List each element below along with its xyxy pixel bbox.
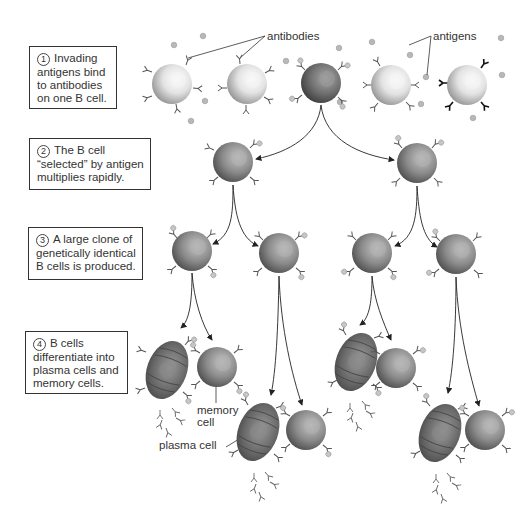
step-text-line: plasma cells and <box>33 364 119 376</box>
memory-cell <box>188 341 246 394</box>
antigens-label: antigens <box>433 30 476 43</box>
step-number: 3 <box>36 234 49 247</box>
naive-b-cell-2 <box>218 55 274 114</box>
step-2-box: 2The B cell “selected” by antigen multip… <box>29 138 151 190</box>
plasma-cell-label: plasma cell <box>159 439 217 452</box>
memory-cell <box>457 404 516 453</box>
naive-b-cell-1 <box>143 56 203 114</box>
step-text-line: The B cell <box>54 144 105 156</box>
step-4-box: 4B cells differentiate into plasma cells… <box>25 331 128 394</box>
step-3-box: 3A large clone of genetically identical … <box>28 227 143 280</box>
secreted-antibodies <box>432 471 461 503</box>
memory-cell <box>371 344 427 391</box>
step-text-line: to antibodies <box>37 79 102 91</box>
step-text-line: differentiate into <box>33 351 115 363</box>
memory-cell-label-line2: cell <box>197 416 214 429</box>
step-text-line: multiplies rapidly. <box>37 171 124 183</box>
step-text-line: on one B cell. <box>37 92 107 104</box>
clone-b-cell <box>167 224 220 278</box>
step-text-line: B cells is produced. <box>36 260 136 272</box>
step-text-line: Invading <box>54 52 97 64</box>
selected-b-cell <box>288 57 351 110</box>
clone-b-cell <box>205 137 264 185</box>
step-text-line: genetically identical <box>36 247 136 259</box>
step-text-line: antigens bind <box>37 66 105 78</box>
step-text-line: memory cells. <box>33 377 104 389</box>
clone-b-cell <box>392 134 445 186</box>
step-number: 1 <box>37 53 50 66</box>
step-number: 2 <box>37 145 50 158</box>
secreted-antibodies <box>156 406 185 437</box>
step-text-line: A large clone of <box>53 233 132 245</box>
secreted-antibodies <box>250 470 279 501</box>
plasma-cell <box>136 333 198 437</box>
memory-cell <box>278 404 335 457</box>
clone-b-cell <box>425 228 482 280</box>
naive-b-cell-4 <box>439 59 489 111</box>
step-text-line: B cells <box>50 337 84 349</box>
step-1-box: 1Invading antigens bind to antibodies on… <box>29 46 117 109</box>
plasma-cell <box>327 321 385 431</box>
antibodies-label: antibodies <box>267 30 319 43</box>
clone-b-cell <box>340 232 399 281</box>
secreted-antibodies <box>347 399 375 431</box>
step-number: 4 <box>33 338 46 351</box>
step-text-line: “selected” by antigen <box>37 158 144 170</box>
naive-b-cell-3 <box>363 57 419 112</box>
clone-b-cell <box>253 229 308 281</box>
